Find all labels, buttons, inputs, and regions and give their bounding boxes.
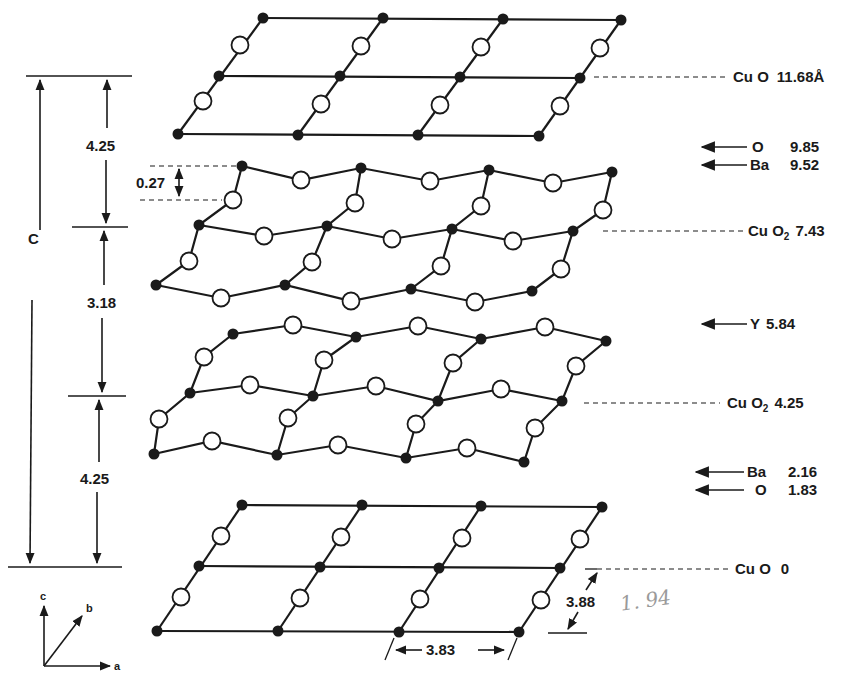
plane-labels: Cu O11.68Å O 9.85 Ba 9.52 Cu O27.43 Y5.8… xyxy=(584,68,825,577)
a-axis-label: a xyxy=(114,660,121,672)
oxygen-atoms xyxy=(151,317,585,457)
lattice-a-label: 3.83 xyxy=(426,641,455,658)
label-o-top: O xyxy=(752,138,764,155)
axes-indicator: c b a xyxy=(40,590,121,672)
b-axis-label: b xyxy=(86,602,93,614)
label-ba-top: Ba xyxy=(750,156,770,173)
handwritten-note: 1. 94 xyxy=(619,585,673,616)
label-cuo2-upper: Cu O27.43 xyxy=(748,222,825,242)
b-axis-arrow xyxy=(44,616,82,666)
lattice-dimensions: 3.83 3.88 1. 94 xyxy=(385,569,672,660)
label-cuo-top: Cu O11.68Å xyxy=(733,68,825,85)
cuo-plane-bottom xyxy=(152,500,608,638)
spacing-middle-label: 3.18 xyxy=(87,294,116,311)
c-axis-dimension: C 4.25 3.18 4.25 xyxy=(8,76,132,567)
label-y: Y5.84 xyxy=(750,315,796,332)
value-ba-bottom: 2.16 xyxy=(788,463,817,480)
spacing-bottom-label: 4.25 xyxy=(80,470,109,487)
value-o-bottom: 1.83 xyxy=(788,481,817,498)
label-o-bottom: O xyxy=(755,481,767,498)
spacing-top-label: 4.25 xyxy=(86,137,115,154)
label-cuo-bottom: Cu O0 xyxy=(735,560,789,577)
label-ba-bottom: Ba xyxy=(747,463,767,480)
label-cuo2-lower: Cu O24.25 xyxy=(727,394,804,414)
value-ba-top: 9.52 xyxy=(790,156,819,173)
oxygen-atoms xyxy=(181,172,612,311)
value-o-top: 9.85 xyxy=(790,138,819,155)
buckling-dimension: 0.27 xyxy=(136,166,236,200)
c-axis-label: c xyxy=(40,590,46,602)
crystal-structure-diagram: C 4.25 3.18 4.25 0.27 Cu O11.68Å O 9.85 … xyxy=(0,0,850,682)
cuo2-plane-lower xyxy=(149,317,612,468)
buckling-label: 0.27 xyxy=(136,174,165,191)
cuo-plane-top xyxy=(173,13,627,142)
c-lattice-label: C xyxy=(28,230,39,247)
cuo2-plane-upper xyxy=(151,161,618,311)
lattice-b-label: 3.88 xyxy=(566,593,595,610)
